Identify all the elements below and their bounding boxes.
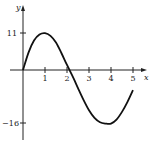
x-tick-label: 1 [42, 74, 47, 83]
chart: 1 2 3 4 5 11 −16 y x [0, 0, 150, 143]
x-tick-label: 2 [64, 74, 69, 83]
x-axis-arrow-icon [141, 68, 147, 72]
x-axis-label: x [144, 73, 149, 82]
y-axis-label: y [15, 3, 21, 12]
y-axis-arrow-icon [21, 5, 25, 11]
curve [23, 33, 133, 124]
x-tick-label: 4 [108, 74, 113, 83]
y-tick-label: −16 [2, 119, 19, 128]
x-tick-label: 3 [86, 74, 91, 83]
x-tick-label: 5 [130, 74, 135, 83]
y-tick-label: 11 [7, 29, 17, 38]
